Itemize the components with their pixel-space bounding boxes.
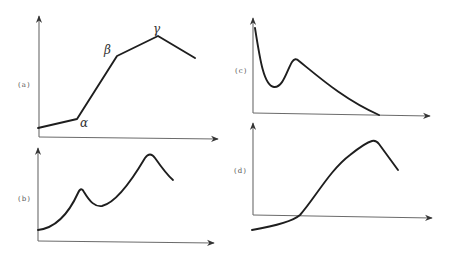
x-axis-c [253, 113, 430, 116]
diagram-canvas: (a) α β γ (b) (c) (d) [0, 0, 451, 259]
curve-a [38, 36, 195, 128]
panel-label-b: (b) [18, 195, 31, 203]
panel-label-d: (d) [234, 167, 247, 175]
beta-label: β [103, 43, 111, 57]
panel-a: (a) α β γ [18, 16, 218, 139]
gamma-label: γ [153, 22, 161, 36]
curve-c [255, 28, 379, 115]
panel-label-c: (c) [235, 67, 247, 75]
panel-label-a: (a) [18, 81, 31, 89]
x-axis-a [39, 137, 218, 139]
panel-c: (c) [235, 18, 430, 116]
alpha-label: α [80, 116, 88, 130]
curve-b [38, 155, 173, 231]
panel-b: (b) [18, 148, 214, 243]
x-axis-b [38, 241, 214, 243]
panel-d: (d) [234, 123, 432, 230]
x-axis-d [253, 215, 432, 218]
